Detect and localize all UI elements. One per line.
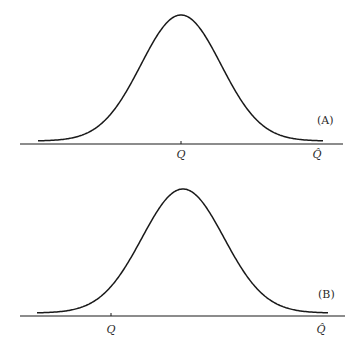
- panel-label: (B): [318, 288, 335, 301]
- bell-curve: [37, 189, 328, 313]
- panel-b: Q Q̂ (B): [20, 189, 345, 336]
- bell-curve-figure: Q Q̂ (A) Q Q̂ (B): [0, 0, 360, 352]
- q-label: Q: [176, 148, 185, 161]
- bell-curve: [38, 15, 323, 141]
- q-hat-label: Q̂: [312, 148, 321, 161]
- q-hat-label: Q̂: [316, 323, 325, 336]
- panel-a: Q Q̂ (A): [20, 15, 343, 161]
- panel-label: (A): [317, 114, 334, 127]
- q-label: Q: [106, 323, 115, 336]
